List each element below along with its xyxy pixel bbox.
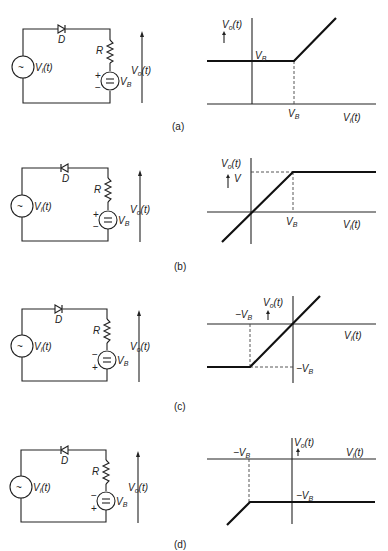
- circuit-b: D R ~ Vi(t) + − VB Vo(t): [11, 164, 150, 242]
- battery-icon: [101, 72, 119, 90]
- output-label: Vo(t): [130, 341, 150, 353]
- diode-clipper-figure: D R ~ Vi(t) + − VB Vo(t) (a): [0, 0, 388, 551]
- x-axis-label: Vi(t): [343, 219, 361, 231]
- resistor-label: R: [93, 325, 100, 336]
- output-label: Vo(t): [128, 482, 148, 494]
- transfer-graph-c: Vo(t) −VB −VB Vi(t): [207, 296, 376, 383]
- transfer-graph-d: Vo(t) −VB −VB Vi(t): [207, 437, 376, 525]
- battery-label: VB: [118, 215, 130, 227]
- transfer-curve: [227, 502, 375, 525]
- resistor-icon: [104, 319, 110, 343]
- diode-label: D: [58, 34, 65, 45]
- level-label: −VB: [296, 363, 314, 375]
- diode-icon: [58, 25, 65, 33]
- level-label: −VB: [296, 490, 314, 502]
- panel-caption-c: (c): [174, 401, 186, 412]
- resistor-label: R: [96, 45, 103, 56]
- battery-bottom-sign: −: [95, 82, 101, 93]
- circuit-c: D R ~ Vi(t) − + VB Vo(t): [11, 305, 150, 382]
- diode-icon: [61, 446, 68, 454]
- resistor-label: R: [92, 466, 99, 477]
- y-axis-label: Vo(t): [294, 437, 314, 449]
- break-label: −VB: [235, 309, 253, 321]
- battery-icon: [97, 492, 115, 510]
- ac-source-icon: ~: [11, 335, 33, 357]
- x-axis-label: Vi(t): [344, 330, 362, 342]
- source-label: Vi(t): [35, 62, 53, 74]
- battery-bottom-sign: +: [91, 503, 97, 514]
- diode-label: D: [61, 455, 68, 466]
- diode-icon: [55, 305, 62, 313]
- svg-text:~: ~: [16, 482, 22, 493]
- battery-label: VB: [117, 355, 129, 367]
- y-axis-label: Vo(t): [263, 297, 283, 309]
- battery-top-sign: +: [95, 70, 101, 81]
- panel-caption-b: (b): [174, 261, 186, 272]
- ac-source-icon: ~: [10, 476, 32, 498]
- battery-bottom-sign: +: [92, 362, 98, 373]
- panel-caption-a: (a): [172, 121, 184, 132]
- panel-c: D R ~ Vi(t) − + VB Vo(t) (c): [11, 296, 376, 412]
- svg-text:~: ~: [17, 341, 23, 352]
- source-label: Vi(t): [33, 482, 51, 494]
- break-label: VB: [286, 216, 298, 228]
- battery-top-sign: −: [92, 349, 98, 360]
- level-label: VB: [255, 50, 267, 62]
- diode-label: D: [62, 173, 69, 184]
- resistor-icon: [103, 460, 109, 484]
- resistor-label: R: [94, 184, 101, 195]
- diode-label: D: [55, 314, 62, 325]
- transfer-curve: [222, 172, 376, 242]
- battery-icon: [98, 351, 116, 369]
- y-extra-label: V: [234, 173, 242, 184]
- resistor-icon: [107, 40, 113, 63]
- wire-top-right: [66, 29, 110, 40]
- wire-top-left: [23, 29, 58, 56]
- circuit-d: D R ~ Vi(t) − + VB Vo(t): [10, 446, 148, 523]
- battery-label: VB: [120, 76, 132, 88]
- source-label: Vi(t): [34, 341, 52, 353]
- battery-label: VB: [116, 496, 128, 508]
- panel-d: D R ~ Vi(t) − + VB Vo(t) (d): [10, 437, 376, 550]
- ac-source-icon: ~: [12, 56, 34, 78]
- break-label: VB: [288, 108, 300, 120]
- y-axis-label: Vo(t): [221, 158, 241, 170]
- circuit-a: D R ~ Vi(t) + − VB Vo(t): [12, 25, 151, 103]
- panel-a: D R ~ Vi(t) + − VB Vo(t) (a): [12, 18, 376, 132]
- svg-text:~: ~: [18, 62, 24, 73]
- transfer-graph-a: Vo(t) VB VB Vi(t): [207, 18, 376, 124]
- ac-source-icon: ~: [11, 195, 33, 217]
- battery-top-sign: −: [91, 490, 97, 501]
- x-axis-label: Vi(t): [343, 112, 361, 124]
- output-label: Vo(t): [131, 65, 151, 77]
- panel-b: D R ~ Vi(t) + − VB Vo(t) (b): [11, 158, 376, 272]
- source-label: Vi(t): [34, 201, 52, 213]
- svg-text:~: ~: [17, 201, 23, 212]
- battery-bottom-sign: −: [93, 221, 99, 232]
- y-axis-label: Vo(t): [222, 19, 242, 31]
- output-label: Vo(t): [130, 204, 150, 216]
- battery-icon: [99, 211, 117, 229]
- diode-icon: [61, 164, 68, 172]
- x-axis-label: Vi(t): [346, 447, 364, 459]
- transfer-graph-b: Vo(t) V VB Vi(t): [207, 158, 376, 244]
- resistor-icon: [105, 178, 111, 202]
- break-label: −VB: [233, 447, 251, 459]
- panel-caption-d: (d): [174, 539, 186, 550]
- battery-top-sign: +: [93, 209, 99, 220]
